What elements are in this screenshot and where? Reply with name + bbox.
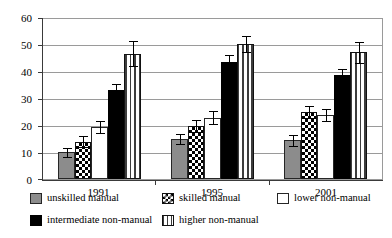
y-tick-label-50: 50 bbox=[21, 40, 32, 51]
bar-1991-higher bbox=[124, 54, 141, 179]
y-tick-50 bbox=[38, 45, 43, 46]
error-cap-upper bbox=[209, 111, 218, 112]
legend-label-skilled-manual: skilled manual bbox=[179, 192, 241, 204]
error-bar-2001-higher bbox=[359, 42, 360, 63]
error-cap-upper bbox=[192, 120, 201, 121]
y-tick-label-0: 0 bbox=[27, 175, 33, 186]
error-cap-lower bbox=[112, 96, 121, 97]
legend-label-unskilled-manual: unskilled manual bbox=[47, 192, 119, 204]
legend-item-lower-non-manual: lower non-manual bbox=[277, 192, 371, 204]
legend-item-intermediate-non-manual: intermediate non-manual bbox=[30, 214, 152, 226]
y-tick-label-30: 30 bbox=[21, 94, 32, 105]
y-tick-label-60: 60 bbox=[21, 13, 32, 24]
error-cap-lower bbox=[225, 68, 234, 69]
bar-1995-skilled bbox=[188, 126, 205, 179]
error-cap-lower bbox=[209, 124, 218, 125]
error-cap-upper bbox=[225, 55, 234, 56]
y-tick-label-40: 40 bbox=[21, 67, 32, 78]
error-cap-upper bbox=[63, 148, 72, 149]
y-tick-60 bbox=[38, 18, 43, 19]
error-bar-1995-unskilled bbox=[180, 134, 181, 145]
legend-swatch-unskilled-manual-icon bbox=[30, 193, 42, 204]
bar-1991-lower bbox=[91, 127, 108, 179]
legend-label-higher-non-manual: higher non-manual bbox=[179, 214, 259, 226]
error-cap-upper bbox=[289, 135, 298, 136]
error-cap-upper bbox=[79, 136, 88, 137]
legend-swatch-lower-non-manual-icon bbox=[277, 193, 289, 204]
bars-layer bbox=[43, 19, 382, 179]
bar-2001-lower bbox=[317, 115, 334, 179]
error-cap-lower bbox=[322, 121, 331, 122]
error-cap-upper bbox=[96, 121, 105, 122]
error-cap-lower bbox=[79, 147, 88, 148]
y-tick-20 bbox=[38, 126, 43, 127]
error-cap-lower bbox=[242, 52, 251, 53]
x-tick-1 bbox=[155, 180, 156, 185]
error-cap-lower bbox=[96, 133, 105, 134]
error-bar-1995-higher bbox=[246, 36, 247, 52]
bar-1995-higher bbox=[237, 44, 254, 179]
error-cap-upper bbox=[242, 36, 251, 37]
error-bar-1991-higher bbox=[133, 41, 134, 66]
error-bar-2001-skilled bbox=[309, 106, 310, 118]
error-cap-upper bbox=[355, 42, 364, 43]
error-cap-lower bbox=[338, 81, 347, 82]
chart-legend: unskilled manual skilled manual lower no… bbox=[30, 192, 390, 236]
bar-1991-intermediate bbox=[108, 90, 125, 179]
y-tick-30 bbox=[38, 99, 43, 100]
error-bar-1995-intermediate bbox=[229, 55, 230, 68]
error-bar-1995-skilled bbox=[196, 120, 197, 132]
grouped-bar-chart: 60 50 40 30 20 10 0 1991 1995 2001 unski… bbox=[0, 0, 392, 238]
error-bar-1995-lower bbox=[213, 111, 214, 124]
error-cap-upper bbox=[112, 84, 121, 85]
error-bar-2001-lower bbox=[326, 109, 327, 122]
error-cap-upper bbox=[129, 41, 138, 42]
plot-area bbox=[42, 18, 383, 180]
error-cap-upper bbox=[322, 109, 331, 110]
error-bar-1991-lower bbox=[100, 121, 101, 133]
y-tick-40 bbox=[38, 72, 43, 73]
y-axis-line bbox=[42, 18, 43, 180]
error-bar-1991-intermediate bbox=[116, 84, 117, 96]
y-tick-label-20: 20 bbox=[21, 121, 32, 132]
legend-label-intermediate-non-manual: intermediate non-manual bbox=[47, 214, 152, 226]
error-cap-lower bbox=[355, 63, 364, 64]
error-bar-1991-unskilled bbox=[67, 148, 68, 158]
error-cap-upper bbox=[176, 134, 185, 135]
error-cap-upper bbox=[338, 69, 347, 70]
error-cap-lower bbox=[289, 146, 298, 147]
bar-2001-skilled bbox=[301, 112, 318, 179]
error-cap-lower bbox=[129, 66, 138, 67]
x-tick-2 bbox=[269, 180, 270, 185]
legend-label-lower-non-manual: lower non-manual bbox=[294, 192, 371, 204]
bar-2001-intermediate bbox=[334, 75, 351, 179]
error-cap-lower bbox=[305, 118, 314, 119]
bar-1995-intermediate bbox=[221, 62, 238, 179]
error-cap-lower bbox=[192, 132, 201, 133]
error-bar-2001-intermediate bbox=[342, 69, 343, 82]
error-bar-1991-skilled bbox=[83, 136, 84, 147]
legend-swatch-skilled-manual-icon bbox=[162, 193, 174, 204]
bar-2001-higher bbox=[350, 52, 367, 179]
error-bar-2001-unskilled bbox=[293, 135, 294, 146]
legend-swatch-higher-non-manual-icon bbox=[162, 215, 174, 226]
legend-item-skilled-manual: skilled manual bbox=[162, 192, 241, 204]
error-cap-lower bbox=[176, 144, 185, 145]
error-cap-upper bbox=[305, 106, 314, 107]
x-axis-line bbox=[42, 180, 383, 181]
bar-1995-lower bbox=[204, 118, 221, 179]
error-cap-lower bbox=[63, 157, 72, 158]
legend-item-unskilled-manual: unskilled manual bbox=[30, 192, 119, 204]
y-tick-label-10: 10 bbox=[21, 148, 32, 159]
legend-item-higher-non-manual: higher non-manual bbox=[162, 214, 259, 226]
legend-swatch-intermediate-non-manual-icon bbox=[30, 215, 42, 226]
y-tick-10 bbox=[38, 153, 43, 154]
